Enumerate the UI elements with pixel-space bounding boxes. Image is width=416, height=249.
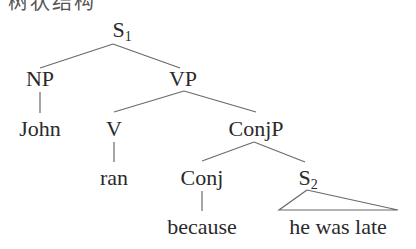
triangle-s2-he-was-late (279, 190, 398, 210)
node-because: because (167, 215, 237, 239)
edge-vp-conjp (184, 91, 256, 112)
node-v: V (106, 117, 122, 141)
node-s2-subscript: 2 (311, 177, 318, 192)
node-s2: S2 (298, 166, 317, 197)
node-s1-subscript: 1 (125, 29, 132, 44)
syntax-tree-diagram: 树状结构 S1 NP VP John V ConjP ran Conj S2 b… (0, 0, 416, 249)
node-conjp: ConjP (228, 117, 283, 141)
node-s2-label: S (298, 165, 310, 190)
edge-s1-np (40, 44, 113, 68)
edge-conjp-s2 (254, 142, 305, 162)
node-vp: VP (169, 67, 197, 91)
node-s1: S1 (112, 18, 131, 49)
node-john: John (19, 117, 61, 141)
node-he-was-late: he was late (289, 215, 387, 239)
node-np: NP (26, 67, 54, 91)
node-s1-label: S (112, 17, 124, 42)
edge-vp-v (114, 91, 184, 112)
edge-conjp-conj (202, 142, 254, 161)
tree-edges (0, 0, 416, 249)
node-ran: ran (100, 166, 128, 190)
node-conj: Conj (181, 166, 224, 190)
